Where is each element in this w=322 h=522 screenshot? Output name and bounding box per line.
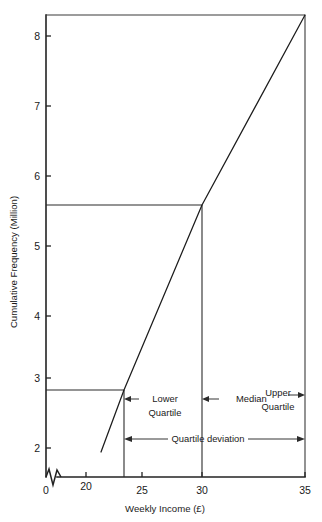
median-arrowhead-icon xyxy=(202,396,209,402)
cumulative-frequency-chart: 8 7 6 5 4 3 2 0 20 25 30 35 xyxy=(0,0,322,522)
x-tick-label-20: 20 xyxy=(80,480,92,492)
x-axis-tick-labels: 0 20 25 30 35 xyxy=(43,480,311,496)
y-tick-label-3: 3 xyxy=(34,372,40,384)
quartile-deviation-annotation: Quartile deviation xyxy=(124,433,305,444)
y-tick-label-6: 6 xyxy=(34,170,40,182)
quartile-segment-labels: Lower Quartile Median Upper Quartile xyxy=(149,387,295,418)
x-tick-label-25: 25 xyxy=(136,484,148,496)
quartile-deviation-arrowhead-left-icon xyxy=(124,436,132,442)
y-tick-label-8: 8 xyxy=(34,30,40,42)
chart-svg: 8 7 6 5 4 3 2 0 20 25 30 35 xyxy=(0,0,322,522)
quartile-deviation-arrowhead-right-icon xyxy=(297,436,305,442)
x-tick-label-35: 35 xyxy=(299,484,311,496)
upper-quartile-arrowhead-icon xyxy=(298,392,305,398)
quartile-deviation-label: Quartile deviation xyxy=(172,433,245,444)
y-tick-label-7: 7 xyxy=(34,100,40,112)
upper-quartile-label-line2: Quartile xyxy=(262,401,295,412)
x-axis-title: Weekly Income (£) xyxy=(125,503,205,514)
lower-quartile-label-line2: Quartile xyxy=(149,407,182,418)
lower-quartile-guides xyxy=(46,390,124,477)
x-tick-label-30: 30 xyxy=(196,484,208,496)
y-tick-label-4: 4 xyxy=(34,310,40,322)
x-tick-label-0: 0 xyxy=(43,484,49,496)
y-tick-label-5: 5 xyxy=(34,240,40,252)
y-tick-label-2: 2 xyxy=(34,442,40,454)
lower-quartile-arrowhead-icon xyxy=(124,396,131,402)
y-axis-title: Cumulative Frequency (Million) xyxy=(8,196,19,328)
lower-quartile-label-line1: Lower xyxy=(152,393,178,404)
upper-quartile-label-line1: Upper xyxy=(265,387,291,398)
y-axis-tick-labels: 8 7 6 5 4 3 2 xyxy=(34,30,40,454)
